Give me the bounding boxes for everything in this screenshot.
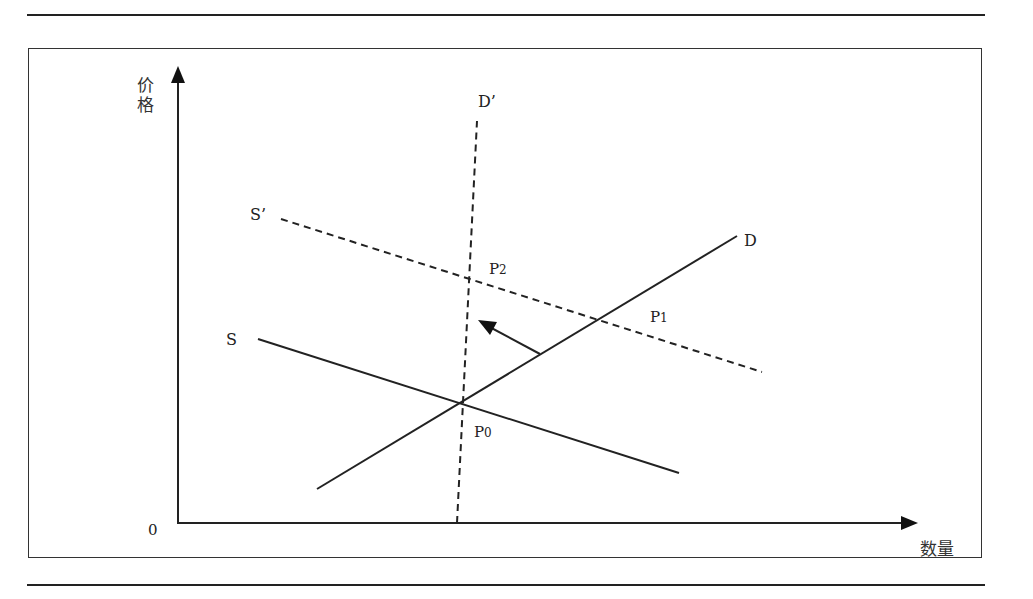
- shift-arrowhead-icon: [478, 320, 497, 335]
- point-p0-label: P0: [474, 423, 492, 441]
- point-p1-label: P1: [650, 308, 668, 326]
- label-d: D: [744, 231, 757, 250]
- label-s: S: [226, 330, 237, 349]
- y-axis-label-1: 价: [137, 75, 154, 95]
- supply-curve-s: [258, 339, 679, 473]
- supply-curve-s-prime: [281, 219, 762, 372]
- y-axis-arrow-icon: [171, 66, 185, 83]
- supply-demand-diagram: 价 格 数量 0 D’ S’ D S P2 P1 P0: [0, 0, 1033, 599]
- x-axis: [178, 516, 918, 530]
- x-axis-arrow-icon: [901, 516, 918, 530]
- demand-curve-d: [317, 236, 737, 489]
- demand-curve-d-prime: [457, 121, 477, 523]
- origin-label: 0: [148, 521, 158, 539]
- label-d-prime: D’: [478, 92, 496, 111]
- x-axis-label: 数量: [920, 539, 954, 559]
- y-axis: [171, 66, 185, 524]
- label-s-prime: S’: [250, 205, 266, 224]
- y-axis-label-2: 格: [137, 95, 154, 115]
- point-p2-label: P2: [489, 260, 507, 278]
